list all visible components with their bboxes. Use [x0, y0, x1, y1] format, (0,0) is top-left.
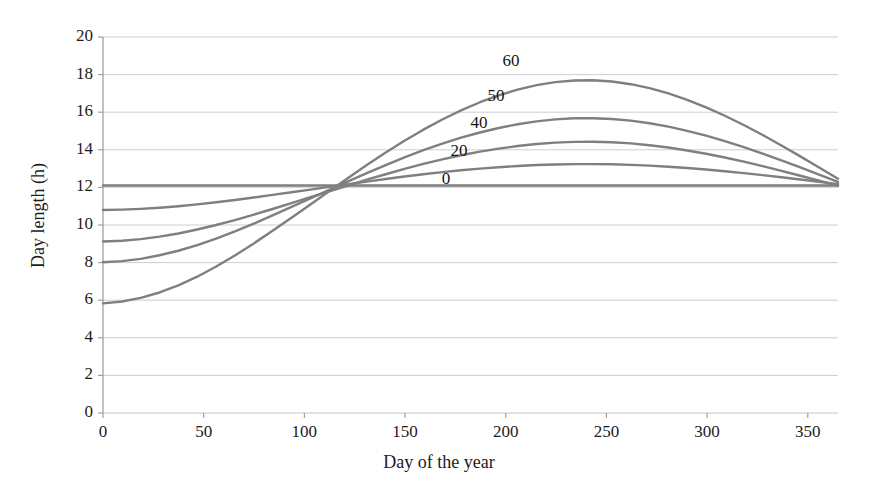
x-tick-label-350: 350 — [778, 422, 838, 442]
series-annotation-0: 0 — [426, 169, 466, 189]
x-tick-label-150: 150 — [375, 422, 435, 442]
y-axis-title: Day length (h) — [28, 116, 49, 316]
y-tick-label-10: 10 — [45, 214, 93, 234]
y-tick-label-4: 4 — [45, 327, 93, 347]
y-tick-label-2: 2 — [45, 364, 93, 384]
y-tick-label-20: 20 — [45, 26, 93, 46]
series-annotation-20: 20 — [439, 141, 479, 161]
x-tick-label-250: 250 — [576, 422, 636, 442]
x-tick-label-50: 50 — [174, 422, 234, 442]
x-tick-label-200: 200 — [476, 422, 536, 442]
chart-plot-area — [0, 0, 878, 494]
y-tick-label-0: 0 — [45, 402, 93, 422]
x-tick-label-300: 300 — [677, 422, 737, 442]
x-tick-label-0: 0 — [73, 422, 133, 442]
x-axis-title: Day of the year — [0, 452, 878, 473]
y-tick-label-16: 16 — [45, 101, 93, 121]
series-annotation-60: 60 — [491, 51, 531, 71]
y-tick-label-6: 6 — [45, 289, 93, 309]
series-line-50 — [103, 118, 838, 262]
y-tick-label-8: 8 — [45, 252, 93, 272]
series-annotation-50: 50 — [476, 86, 516, 106]
x-tick-label-100: 100 — [274, 422, 334, 442]
y-tick-label-14: 14 — [45, 139, 93, 159]
y-tick-label-12: 12 — [45, 176, 93, 196]
chart-figure: 20181614121086420 050100150200250300350 … — [0, 0, 878, 494]
series-annotation-40: 40 — [459, 113, 499, 133]
y-tick-label-18: 18 — [45, 64, 93, 84]
